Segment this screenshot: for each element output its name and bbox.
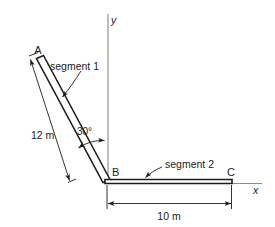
segment-1-leader — [63, 71, 82, 97]
beam-diagram-figure: A B C segment 1 segment 2 12 m 10 m 30° … — [0, 0, 275, 227]
angle-30-label: 30° — [77, 126, 92, 137]
segment-2-label: segment 2 — [165, 158, 214, 170]
dimension-10m-label: 10 m — [157, 210, 181, 222]
dimension-12m-label: 12 m — [31, 129, 55, 141]
diagram-canvas: A B C segment 1 segment 2 12 m 10 m 30° … — [0, 0, 275, 227]
segment-1-member — [37, 56, 111, 183]
segment-2-leader-line — [146, 167, 163, 178]
segment-1-leader-line — [63, 71, 82, 97]
segment-2-member — [105, 180, 232, 184]
point-label-a: A — [34, 44, 42, 56]
segment-1-body — [37, 56, 111, 183]
point-label-b: B — [112, 166, 119, 178]
point-label-c: C — [227, 166, 235, 178]
y-axis-label: y — [110, 14, 117, 26]
x-axis-label: x — [252, 184, 259, 196]
segment-1-label: segment 1 — [50, 60, 99, 72]
segment-2-body — [105, 180, 232, 184]
dimension-10m — [107, 185, 232, 209]
segment-2-leader — [146, 167, 163, 178]
